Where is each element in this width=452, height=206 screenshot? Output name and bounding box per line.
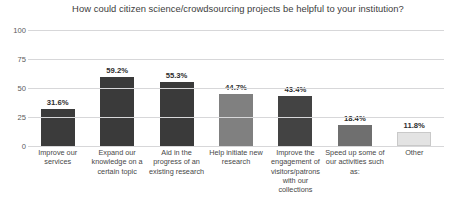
x-category-label: Improve the engagement of visitors/patro…	[266, 148, 325, 194]
bar-value-label: 43.4%	[285, 85, 307, 94]
bar	[160, 82, 194, 146]
x-category-label: Improve our services	[28, 148, 87, 167]
bar	[278, 96, 312, 146]
bar-value-label: 59.2%	[106, 66, 128, 75]
bar-value-label: 11.8%	[404, 121, 425, 130]
gridline	[28, 146, 444, 147]
bar-value-label: 55.3%	[166, 71, 188, 80]
bar-value-label: 18.4%	[344, 114, 366, 123]
x-axis-labels: Improve our servicesExpand our knowledge…	[28, 148, 444, 206]
x-category-label: Aid in the progress of an existing resea…	[147, 148, 206, 176]
bar-chart: How could citizen science/crowdsourcing …	[0, 0, 452, 206]
bar-value-label: 31.6%	[47, 98, 69, 107]
bar	[338, 125, 372, 146]
y-tick-label: 25	[2, 113, 26, 122]
x-category-label: Speed up some of our activities such as:	[325, 148, 384, 176]
bar	[397, 132, 431, 146]
bar	[41, 109, 75, 146]
gridline	[28, 88, 444, 89]
gridline	[28, 59, 444, 60]
y-tick-label: 50	[2, 84, 26, 93]
y-tick-label: 75	[2, 55, 26, 64]
plot-area: 31.6%59.2%55.3%44.7%43.4%18.4%11.8%	[28, 30, 444, 146]
y-tick-label: 0	[2, 142, 26, 151]
x-category-label: Expand our knowledge on a certain topic	[87, 148, 146, 176]
bar	[219, 94, 253, 146]
y-tick-label: 100	[2, 26, 26, 35]
gridline	[28, 30, 444, 31]
x-category-label: Other	[385, 148, 444, 157]
gridline	[28, 117, 444, 118]
chart-title: How could citizen science/crowdsourcing …	[38, 3, 438, 15]
x-category-label: Help initiate new research	[206, 148, 265, 167]
y-axis: 1007550250	[0, 30, 26, 146]
